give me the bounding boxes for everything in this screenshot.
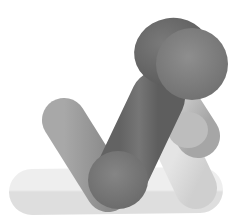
capsule-render-scene (0, 0, 237, 224)
